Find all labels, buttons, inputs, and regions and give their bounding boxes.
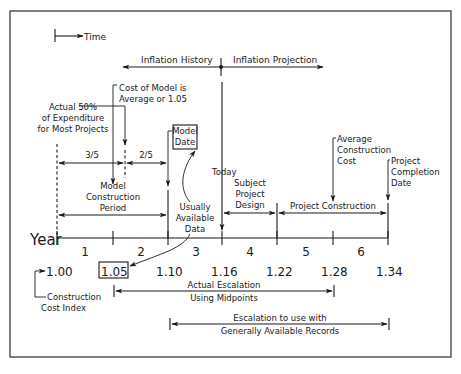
svg-text:Data: Data	[185, 224, 205, 234]
model-construction-period: Model Construction Period	[59, 181, 168, 238]
project-completion-date: Project Completion Date	[388, 156, 440, 200]
svg-text:Completion: Completion	[391, 167, 440, 177]
actual-50-annotation: Actual 50% of Expenditure for Most Proje…	[38, 102, 125, 145]
svg-text:1: 1	[81, 245, 89, 259]
svg-text:Available: Available	[176, 213, 214, 223]
svg-text:1.28: 1.28	[321, 265, 348, 279]
actual-escalation: Actual Escalation Using Midpoints	[114, 280, 334, 303]
svg-text:Project Construction: Project Construction	[290, 201, 376, 211]
svg-text:Actual Escalation: Actual Escalation	[188, 280, 261, 290]
svg-text:1.34: 1.34	[376, 265, 403, 279]
svg-text:Average or 1.05: Average or 1.05	[119, 94, 187, 104]
svg-text:Generally Available Records: Generally Available Records	[221, 326, 340, 336]
svg-text:2: 2	[137, 245, 145, 259]
svg-text:Period: Period	[100, 203, 127, 213]
svg-text:Construction: Construction	[337, 145, 391, 155]
svg-text:Construction: Construction	[47, 292, 101, 302]
year-axis-label: Year	[29, 231, 63, 249]
svg-text:4: 4	[246, 245, 254, 259]
svg-text:for Most Projects: for Most Projects	[38, 124, 109, 134]
subject-project-design: Subject Project Design	[224, 178, 277, 238]
svg-text:2/5: 2/5	[139, 150, 153, 160]
svg-text:Cost Index: Cost Index	[41, 303, 86, 313]
construction-cost-index-values: 1.00 1.05 1.10 1.16 1.22 1.28 1.34	[46, 262, 403, 279]
year-axis: Year 1 2 3 4 5 6	[29, 231, 388, 259]
svg-text:1.22: 1.22	[266, 265, 293, 279]
time-label: Time	[83, 32, 106, 42]
svg-text:6: 6	[357, 245, 365, 259]
time-legend: Time	[55, 29, 106, 42]
today-label: Today	[211, 167, 237, 177]
general-escalation: Escalation to use with Generally Availab…	[170, 313, 389, 336]
svg-text:Cost: Cost	[337, 156, 357, 166]
fraction-arrows: 3/5 2/5	[59, 150, 166, 163]
svg-text:1.10: 1.10	[156, 265, 183, 279]
svg-text:Average: Average	[337, 134, 372, 144]
svg-text:of Expenditure: of Expenditure	[42, 113, 104, 123]
svg-text:Date: Date	[175, 137, 195, 147]
average-construction-cost: Average Construction Cost	[333, 134, 391, 201]
svg-text:Model: Model	[172, 126, 198, 136]
svg-text:3: 3	[192, 245, 200, 259]
svg-text:1.00: 1.00	[46, 265, 73, 279]
escalation-diagram: Time Inflation History Inflation Project…	[0, 0, 461, 374]
svg-text:Project: Project	[391, 156, 421, 166]
svg-text:1.05: 1.05	[101, 265, 128, 279]
svg-text:5: 5	[302, 245, 310, 259]
svg-text:Construction: Construction	[86, 192, 140, 202]
svg-text:3/5: 3/5	[85, 150, 99, 160]
svg-text:Design: Design	[235, 200, 264, 210]
svg-text:Subject: Subject	[234, 178, 266, 188]
svg-text:Date: Date	[391, 178, 411, 188]
svg-text:Actual 50%: Actual 50%	[49, 102, 97, 112]
svg-text:Escalation to use with: Escalation to use with	[233, 313, 326, 323]
svg-text:1.16: 1.16	[211, 265, 238, 279]
svg-text:Model: Model	[100, 181, 126, 191]
svg-text:Usually: Usually	[180, 202, 211, 212]
svg-text:Cost of Model is: Cost of Model is	[119, 83, 187, 93]
svg-text:Using Midpoints: Using Midpoints	[190, 293, 258, 303]
svg-text:Project: Project	[235, 189, 265, 199]
inflation-projection-label: Inflation Projection	[233, 55, 317, 65]
inflation-history-label: Inflation History	[141, 55, 213, 65]
inflation-timeline: Inflation History Inflation Projection	[123, 55, 323, 76]
